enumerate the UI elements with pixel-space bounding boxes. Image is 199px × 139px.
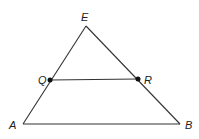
triangle-diagram: E A B Q R <box>0 0 199 139</box>
label-a: A <box>8 119 16 131</box>
point-q-dot <box>48 78 53 83</box>
label-r: R <box>144 74 152 86</box>
segment-ea <box>23 26 86 124</box>
label-q: Q <box>38 74 47 86</box>
point-r-dot <box>136 77 141 82</box>
segment-qr <box>50 79 138 80</box>
label-e: E <box>81 11 89 23</box>
label-b: B <box>185 119 192 131</box>
segment-eb <box>86 26 180 124</box>
